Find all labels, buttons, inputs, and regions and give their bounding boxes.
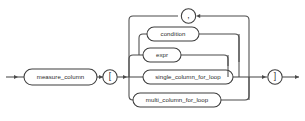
node-multi-column-for-loop: multi_column_for_loop [133,93,221,107]
node-single-column-for-loop: single_column_for_loop [143,70,233,84]
railroad-diagram: measure_column [ [0,0,305,121]
node-close-bracket-label: ] [274,71,276,81]
node-condition-label: condition [161,30,186,37]
rail-convergence-spine [228,34,267,100]
node-expr-label: expr [156,51,168,58]
entry-rail [6,75,24,79]
node-close-bracket: ] [268,70,282,84]
node-condition: condition [147,27,199,41]
rail-condition-out [199,34,239,62]
rail-measure-to-open-bracket [97,75,103,79]
node-open-bracket: [ [103,70,117,84]
railroad-diagram-canvas: measure_column [ [0,0,305,121]
node-comma-label: , [187,10,189,20]
node-measure-column: measure_column [24,69,97,85]
node-expr: expr [143,48,181,62]
rail-open-bracket-to-junction [117,75,129,79]
node-comma: , [181,9,195,23]
exit-rail [282,75,299,79]
node-single-column-for-loop-label: single_column_for_loop [155,73,221,80]
node-measure-column-label: measure_column [37,73,84,80]
node-multi-column-for-loop-label: multi_column_for_loop [146,96,209,103]
rail-expr-out [181,55,228,66]
